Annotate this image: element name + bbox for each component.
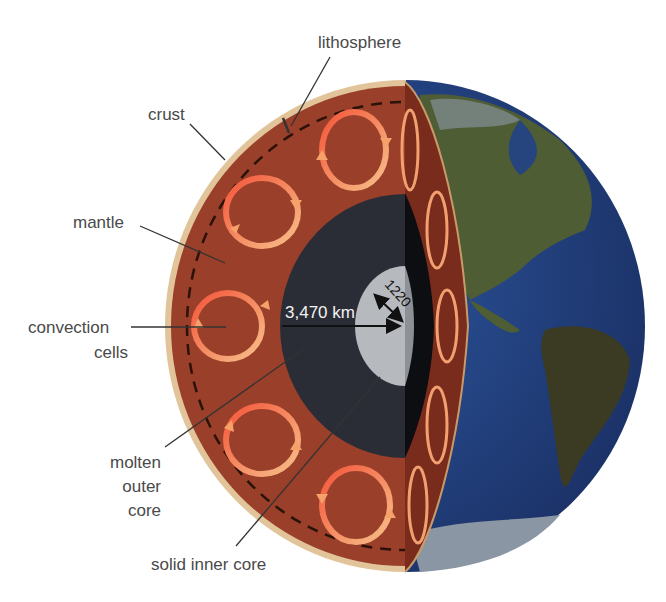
label-lithosphere: lithosphere [318,33,401,52]
crust-leader [190,124,225,160]
label-outer: outer [122,477,161,496]
label-mantle: mantle [73,213,124,232]
label-core: core [128,501,161,520]
earth-interior-diagram: 3,470 km 1220 lithosphere crust mantle c… [0,0,666,602]
label-molten: molten [110,453,161,472]
label-cells: cells [94,343,128,362]
label-solid-inner-core: solid inner core [151,555,266,574]
outer-core-radius-label: 3,470 km [285,303,355,322]
label-convection: convection [28,318,109,337]
label-crust: crust [148,105,185,124]
